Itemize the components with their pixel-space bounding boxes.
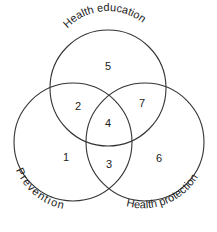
region-6: 6 [156, 152, 162, 164]
venn-diagram: Health education Prevention Health prote… [0, 0, 217, 232]
region-4: 4 [105, 117, 111, 129]
label-health-protection: Health protection [125, 171, 199, 210]
label-health-education: Health education [60, 1, 148, 30]
label-prevention: Prevention [14, 166, 66, 211]
region-2: 2 [75, 100, 81, 112]
region-7: 7 [139, 97, 145, 109]
region-3: 3 [106, 158, 112, 170]
region-5: 5 [105, 60, 111, 72]
region-1: 1 [63, 151, 69, 163]
